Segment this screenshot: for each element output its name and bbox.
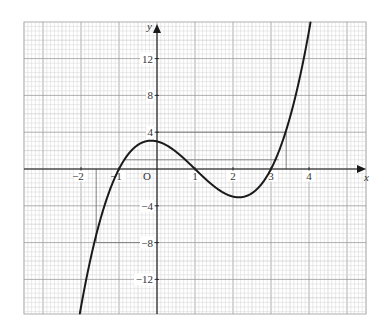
cubic-graph: −2−112341284−4−8−12 x y O bbox=[0, 0, 387, 329]
y-tick-label: −12 bbox=[136, 273, 153, 285]
y-tick-label: 4 bbox=[148, 126, 154, 138]
y-tick-label: −4 bbox=[141, 200, 153, 212]
x-axis-label: x bbox=[363, 171, 369, 183]
origin-label: O bbox=[143, 170, 151, 182]
y-tick-label: 12 bbox=[142, 53, 153, 65]
y-axis-label: y bbox=[146, 20, 152, 32]
y-tick-label: −8 bbox=[141, 237, 153, 249]
x-tick-label: −2 bbox=[72, 170, 84, 182]
y-tick-label: 8 bbox=[148, 89, 154, 101]
x-tick-label: 2 bbox=[230, 170, 236, 182]
x-tick-label: 4 bbox=[306, 170, 312, 182]
